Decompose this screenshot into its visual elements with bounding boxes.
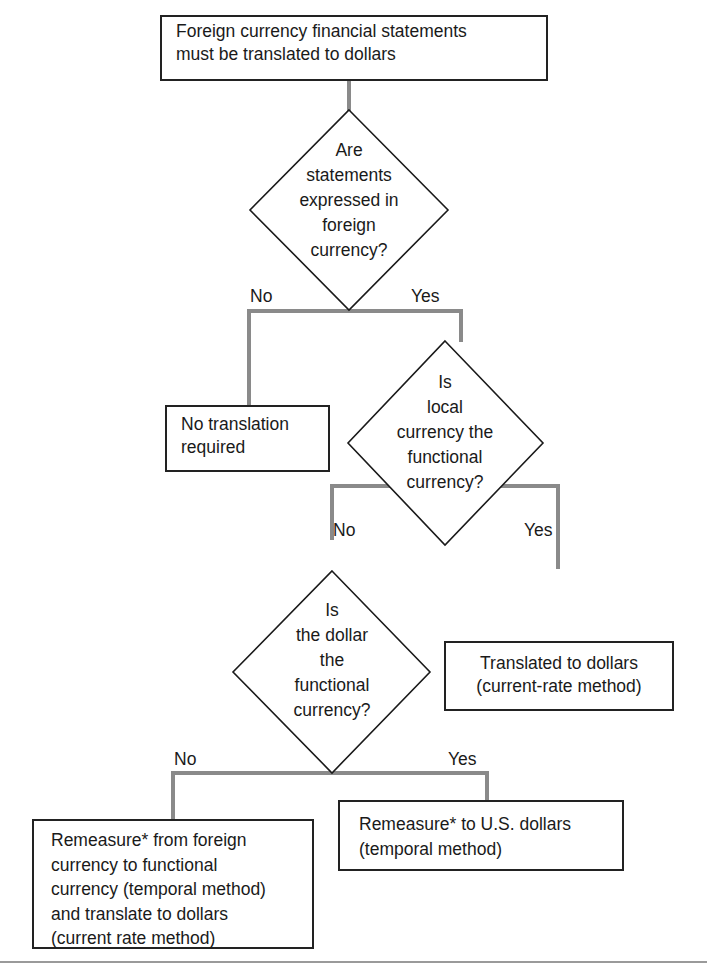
decision3-yes-label: Yes bbox=[448, 749, 477, 769]
outcome-remeasure-and-translate-box: Remeasure* from foreign currency to func… bbox=[32, 819, 314, 949]
decision1-line-2: statements bbox=[269, 163, 429, 188]
decision3-line-3: the bbox=[252, 648, 412, 673]
decision3-line-5: currency? bbox=[252, 698, 412, 723]
outcome-no-translation-box: No translation required bbox=[165, 405, 330, 472]
decision1-yes-label: Yes bbox=[411, 286, 440, 306]
outcome-remeasure-usd-box: Remeasure* to U.S. dollars (temporal met… bbox=[338, 800, 624, 871]
remeasure-usd-line-1: Remeasure* to U.S. dollars bbox=[359, 812, 608, 837]
decision2-yes-label: Yes bbox=[524, 520, 553, 540]
decision1-text: Are statements expressed in foreign curr… bbox=[269, 138, 429, 263]
decision1-line-5: currency? bbox=[269, 238, 429, 263]
decision3-line-4: functional bbox=[252, 673, 412, 698]
decision1-no-label: No bbox=[250, 286, 272, 306]
remeasure-translate-line-1: Remeasure* from foreign bbox=[51, 828, 298, 853]
decision1-line-4: foreign bbox=[269, 213, 429, 238]
flowchart-canvas: Foreign currency financial statements mu… bbox=[0, 0, 707, 974]
start-line-1: Foreign currency financial statements bbox=[176, 20, 532, 43]
decision3-line-2: the dollar bbox=[252, 623, 412, 648]
decision1-line-1: Are bbox=[269, 138, 429, 163]
decision3-no-label: No bbox=[174, 749, 196, 769]
current-rate-line-1: Translated to dollars bbox=[446, 652, 672, 675]
no-translation-line-2: required bbox=[181, 436, 314, 459]
no-translation-line-1: No translation bbox=[181, 413, 314, 436]
remeasure-translate-line-2: currency to functional bbox=[51, 853, 298, 878]
decision2-line-4: functional bbox=[365, 445, 525, 470]
start-box: Foreign currency financial statements mu… bbox=[160, 15, 548, 81]
remeasure-translate-line-4: and translate to dollars bbox=[51, 902, 298, 927]
decision2-text: Is local currency the functional currenc… bbox=[365, 370, 525, 495]
outcome-current-rate-box: Translated to dollars (current-rate meth… bbox=[444, 641, 674, 711]
decision1-line-3: expressed in bbox=[269, 188, 429, 213]
remeasure-usd-line-2: (temporal method) bbox=[359, 837, 608, 862]
decision2-line-1: Is bbox=[365, 370, 525, 395]
decision3-text: Is the dollar the functional currency? bbox=[252, 598, 412, 723]
start-line-2: must be translated to dollars bbox=[176, 43, 532, 66]
decision2-line-5: currency? bbox=[365, 470, 525, 495]
remeasure-translate-line-3: currency (temporal method) bbox=[51, 877, 298, 902]
decision2-no-label: No bbox=[333, 520, 355, 540]
decision2-line-3: currency the bbox=[365, 420, 525, 445]
current-rate-line-2: (current-rate method) bbox=[446, 675, 672, 698]
bottom-divider bbox=[0, 961, 707, 963]
decision2-line-2: local bbox=[365, 395, 525, 420]
remeasure-translate-line-5: (current rate method) bbox=[51, 926, 298, 951]
decision3-line-1: Is bbox=[252, 598, 412, 623]
